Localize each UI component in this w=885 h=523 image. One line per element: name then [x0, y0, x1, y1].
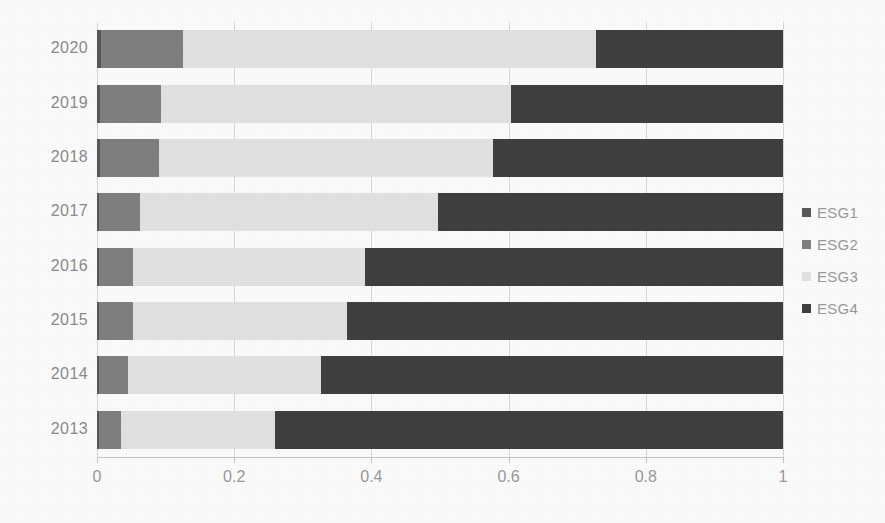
- y-axis-category-label: 2016: [8, 257, 88, 275]
- bar-segment-esg4: [438, 193, 783, 231]
- plot-area: [97, 22, 783, 457]
- legend-label: ESG3: [817, 269, 858, 284]
- legend-item-esg3[interactable]: ESG3: [802, 260, 882, 292]
- chart-legend: ESG1ESG2ESG3ESG4: [802, 196, 882, 324]
- legend-label: ESG1: [817, 205, 858, 220]
- y-axis-category-label: 2020: [8, 39, 88, 57]
- bar-segment-esg3: [128, 356, 321, 394]
- legend-label: ESG4: [817, 301, 858, 316]
- bar-segment-esg4: [493, 139, 783, 177]
- gridline: [783, 22, 784, 457]
- bar-row: [97, 356, 783, 394]
- bar-row: [97, 193, 783, 231]
- x-axis-line: [97, 457, 783, 458]
- legend-item-esg4[interactable]: ESG4: [802, 292, 882, 324]
- bar-segment-esg4: [321, 356, 783, 394]
- y-axis-category-label: 2014: [8, 365, 88, 383]
- bar-row: [97, 30, 783, 68]
- bar-segment-esg3: [183, 30, 596, 68]
- x-tickmark: [234, 457, 235, 463]
- x-axis-tick-label: 1: [779, 468, 788, 486]
- x-tickmark: [509, 457, 510, 463]
- bar-row: [97, 85, 783, 123]
- bar-segment-esg2: [99, 302, 133, 340]
- x-axis-tick-label: 0.4: [360, 468, 382, 486]
- y-axis-category-label: 2015: [8, 311, 88, 329]
- x-axis-tick-label: 0.6: [497, 468, 519, 486]
- bar-segment-esg2: [99, 248, 133, 286]
- x-tickmark: [371, 457, 372, 463]
- bar-segment-esg2: [100, 139, 159, 177]
- legend-item-esg1[interactable]: ESG1: [802, 196, 882, 228]
- bar-segment-esg4: [275, 411, 783, 449]
- bar-segment-esg3: [121, 411, 275, 449]
- y-axis-category-label: 2019: [8, 94, 88, 112]
- y-axis-category-label: 2017: [8, 202, 88, 220]
- bar-segment-esg3: [133, 248, 364, 286]
- x-tickmark: [97, 457, 98, 463]
- legend-label: ESG2: [817, 237, 858, 252]
- bar-segment-esg2: [100, 85, 160, 123]
- bar-row: [97, 248, 783, 286]
- bar-segment-esg4: [347, 302, 783, 340]
- bar-segment-esg3: [161, 85, 511, 123]
- x-axis-labels: 00.20.40.60.81: [97, 468, 783, 498]
- y-axis-labels: 20202019201820172016201520142013: [0, 22, 88, 457]
- bar-segment-esg2: [101, 30, 183, 68]
- x-axis-tick-label: 0: [93, 468, 102, 486]
- stacked-bar-chart: 20202019201820172016201520142013 00.20.4…: [0, 0, 885, 523]
- y-axis-category-label: 2018: [8, 148, 88, 166]
- x-tickmark: [646, 457, 647, 463]
- legend-item-esg2[interactable]: ESG2: [802, 228, 882, 260]
- y-axis-category-label: 2013: [8, 420, 88, 438]
- bar-segment-esg2: [99, 356, 128, 394]
- bar-row: [97, 139, 783, 177]
- legend-swatch-icon: [802, 272, 811, 281]
- bar-segment-esg3: [159, 139, 493, 177]
- bar-row: [97, 411, 783, 449]
- bar-segment-esg2: [99, 193, 140, 231]
- x-axis-tick-label: 0.8: [635, 468, 657, 486]
- bar-segment-esg4: [596, 30, 783, 68]
- bar-segment-esg4: [365, 248, 783, 286]
- bar-segment-esg4: [511, 85, 783, 123]
- bar-row: [97, 302, 783, 340]
- legend-swatch-icon: [802, 240, 811, 249]
- legend-swatch-icon: [802, 304, 811, 313]
- bar-segment-esg2: [99, 411, 121, 449]
- legend-swatch-icon: [802, 208, 811, 217]
- bar-segment-esg3: [133, 302, 348, 340]
- x-axis-tick-label: 0.2: [223, 468, 245, 486]
- bar-segment-esg3: [140, 193, 438, 231]
- x-tickmark: [783, 457, 784, 463]
